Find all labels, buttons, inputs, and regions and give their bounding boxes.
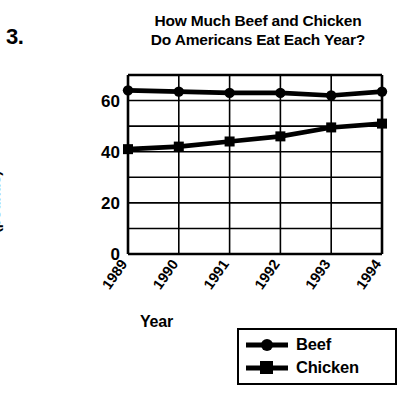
- series-line-beef: [128, 90, 382, 95]
- worksheet-problem: 3. How Much Beef and Chicken Do American…: [0, 0, 413, 400]
- legend-marker-square-icon: [245, 359, 289, 377]
- data-point-chicken: [225, 136, 235, 146]
- data-point-chicken: [174, 142, 184, 152]
- x-axis-title: Year: [140, 313, 173, 331]
- data-point-chicken: [326, 122, 336, 132]
- data-point-beef: [174, 86, 184, 96]
- y-axis-tick-label: 40: [101, 143, 120, 162]
- x-axis-tick-label: 1989: [99, 257, 131, 293]
- data-point-beef: [377, 86, 387, 96]
- series-line-chicken: [128, 124, 382, 150]
- data-point-beef: [123, 85, 133, 95]
- data-point-chicken: [377, 119, 387, 129]
- x-axis-tick-label: 1994: [353, 257, 385, 293]
- x-axis-tick-label: 1993: [302, 257, 334, 293]
- data-point-chicken: [123, 144, 133, 154]
- y-axis-tick-label: 20: [101, 194, 120, 213]
- x-axis-tick-label: 1992: [251, 257, 283, 293]
- legend-item-chicken: Chicken: [245, 356, 389, 379]
- data-point-beef: [224, 88, 234, 98]
- data-point-beef: [326, 90, 336, 100]
- legend-label-beef: Beef: [296, 336, 331, 353]
- legend-label-chicken: Chicken: [296, 359, 359, 376]
- x-axis-tick-label: 1991: [200, 257, 232, 293]
- chart-legend: Beef Chicken: [237, 328, 397, 385]
- chart-gridlines: [128, 75, 382, 254]
- chart-series-layer: [123, 85, 387, 154]
- y-axis-tick-labels: 0204060: [101, 92, 120, 264]
- data-point-chicken: [275, 131, 285, 141]
- y-axis-tick-label: 60: [101, 92, 120, 111]
- x-axis-tick-labels: 198919901991199219931994: [99, 257, 385, 293]
- legend-item-beef: Beef: [245, 333, 389, 356]
- legend-marker-circle-icon: [245, 336, 289, 354]
- x-axis-tick-label: 1990: [150, 257, 182, 293]
- data-point-beef: [275, 88, 285, 98]
